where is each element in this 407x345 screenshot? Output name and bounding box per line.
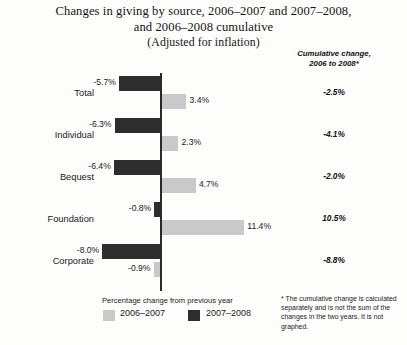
category-label-individual: Individual bbox=[8, 130, 94, 140]
legend-label-2007-2008: 2007–2008 bbox=[206, 308, 251, 318]
cumulative-value-individual: -4.1% bbox=[268, 129, 400, 139]
bar-corporate-2006-2007 bbox=[154, 262, 160, 277]
bar-foundation-2007-2008 bbox=[154, 202, 160, 217]
legend-label-2006-2007: 2006–2007 bbox=[120, 308, 165, 318]
bar-value-individual-2007-2008: -6.3% bbox=[89, 119, 111, 129]
legend-caption: Percentage change from previous year bbox=[102, 296, 233, 305]
cumulative-value-bequest: -2.0% bbox=[268, 171, 400, 181]
chart-title-line-2: and 2006–2008 cumulative bbox=[0, 20, 407, 36]
legend-row: 2006–2007 2007–2008 bbox=[96, 308, 296, 324]
cumulative-column-header: Cumulative change, 2006 to 2008* bbox=[268, 49, 400, 68]
cumulative-column-header-line-1: Cumulative change, bbox=[268, 49, 400, 59]
category-label-foundation: Foundation bbox=[8, 214, 94, 224]
cumulative-column-header-line-2: 2006 to 2008* bbox=[268, 59, 400, 69]
bar-bequest-2006-2007 bbox=[162, 178, 196, 193]
bar-group: Foundation-0.8%11.4%10.5% bbox=[0, 200, 407, 244]
category-label-bequest: Bequest bbox=[8, 172, 94, 182]
bar-individual-2006-2007 bbox=[162, 136, 179, 151]
chart-figure: Changes in giving by source, 2006–2007 a… bbox=[0, 0, 407, 345]
chart-title-line-1: Changes in giving by source, 2006–2007 a… bbox=[0, 4, 407, 20]
category-label-corporate: Corporate bbox=[8, 256, 94, 266]
bar-value-foundation-2007-2008: -0.8% bbox=[129, 203, 151, 213]
bar-group: Total-5.7%3.4%-2.5% bbox=[0, 74, 407, 118]
cumulative-value-corporate: -8.8% bbox=[268, 255, 400, 265]
bar-value-bequest-2007-2008: -6.4% bbox=[88, 161, 110, 171]
cumulative-value-total: -2.5% bbox=[268, 87, 400, 97]
bar-total-2006-2007 bbox=[162, 94, 187, 109]
bar-foundation-2006-2007 bbox=[162, 220, 244, 235]
bar-value-individual-2006-2007: 2.3% bbox=[182, 137, 202, 147]
bar-bequest-2007-2008 bbox=[114, 160, 160, 175]
bar-value-total-2006-2007: 3.4% bbox=[190, 95, 210, 105]
bar-individual-2007-2008 bbox=[115, 118, 160, 133]
bar-value-corporate-2006-2007: -0.9% bbox=[128, 263, 150, 273]
plot-area: Total-5.7%3.4%-2.5%Individual-6.3%2.3%-4… bbox=[0, 70, 407, 292]
chart-title: Changes in giving by source, 2006–2007 a… bbox=[0, 4, 407, 51]
chart-legend: Percentage change from previous year 200… bbox=[96, 296, 296, 336]
chart-footnote: * The cumulative change is calculated se… bbox=[281, 294, 405, 331]
bar-value-total-2007-2008: -5.7% bbox=[93, 77, 115, 87]
bar-total-2007-2008 bbox=[119, 76, 160, 91]
bar-corporate-2007-2008 bbox=[102, 244, 160, 259]
bar-group: Corporate-8.0%-0.9%-8.8% bbox=[0, 242, 407, 286]
category-label-total: Total bbox=[8, 88, 94, 98]
legend-swatch-2006-2007 bbox=[103, 310, 115, 321]
bar-value-bequest-2006-2007: 4.7% bbox=[199, 179, 219, 189]
bar-value-corporate-2007-2008: -8.0% bbox=[77, 245, 99, 255]
cumulative-value-foundation: 10.5% bbox=[268, 213, 400, 223]
bar-group: Bequest-6.4%4.7%-2.0% bbox=[0, 158, 407, 202]
bar-group: Individual-6.3%2.3%-4.1% bbox=[0, 116, 407, 160]
legend-swatch-2007-2008 bbox=[188, 310, 200, 321]
